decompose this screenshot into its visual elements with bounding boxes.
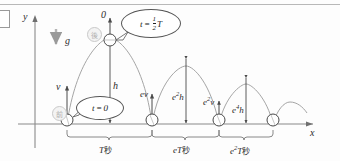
height-label-h: h [113,81,118,91]
y-axis [32,15,37,148]
velocity-label-v: v [56,82,60,92]
brace-e2T [219,130,273,140]
velocity-label-ev: ev [140,90,148,99]
badge-before: 前 [52,106,67,121]
time-eT-base: eT [173,145,182,155]
figure-canvas: y x g 0 前 後 v ev e2v h e2h e4h T秒 eT秒 e2… [0,0,340,161]
height-e2h-tail: h [179,92,184,102]
time-label-T: T秒 [99,144,112,155]
height-label-e4h: e4h [232,104,244,115]
fraction-one-half: 1 2 [153,16,157,32]
velocity-label-e2v: e2v [203,96,214,107]
bubble-t-half-lhs: t [140,19,143,29]
y-axis-label: y [23,12,27,22]
bubble-t-zero-lhs: t [92,103,95,113]
bubble-t-zero-rhs: 0 [104,103,109,113]
height-measure-arrows [110,46,246,123]
bubble-t-zero: t=0 [76,96,124,120]
time-T-unit: 秒 [104,146,112,155]
gravity-label: g [65,36,70,46]
apex-zero-label: 0 [101,9,106,20]
fraction-denominator: 2 [153,24,157,32]
time-e2T-unit: 秒 [242,147,250,156]
velocity-e2v-tail: v [210,97,214,107]
bubble-t-half-tail: T [157,19,162,29]
brace-eT [152,130,219,140]
velocity-ev-base: ev [140,89,148,99]
time-braces [67,130,273,140]
height-label-e2h: e2h [172,91,184,102]
time-label-e2T: e2T秒 [230,144,250,156]
time-label-eT: eT秒 [173,144,190,155]
bubble-t-half-eq: = [144,19,150,29]
height-e4h-tail: h [239,105,244,115]
fraction-numerator: 1 [153,16,157,24]
x-axis-label: x [310,128,314,138]
tail-t-half [116,32,128,40]
bubble-t-half-T: t= 1 2 T [121,9,181,38]
brace-T [67,130,152,140]
badge-after: 後 [87,27,102,42]
bubble-t-zero-eq: = [96,103,102,113]
time-eT-unit: 秒 [182,146,190,155]
